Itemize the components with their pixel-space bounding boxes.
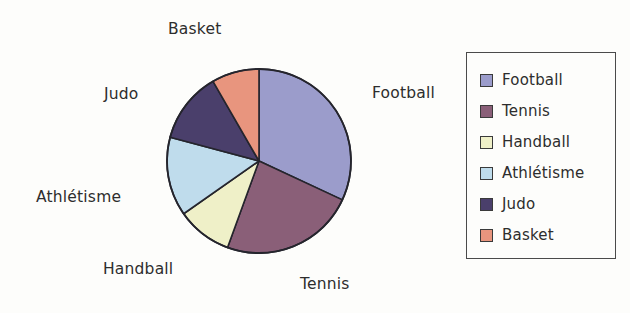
callout-label-judo: Judo: [104, 85, 139, 103]
chart-page: Football Tennis Handball Athlétisme Judo…: [0, 0, 630, 313]
legend-item-label: Judo: [502, 197, 535, 212]
callout-label-basket: Basket: [168, 20, 221, 38]
legend-swatch-icon: [480, 136, 493, 149]
callout-label-athletisme: Athlétisme: [36, 188, 121, 206]
legend-item-label: Athlétisme: [502, 166, 585, 181]
legend-swatch-icon: [480, 229, 493, 242]
legend-swatch-icon: [480, 105, 493, 118]
legend-item-handball[interactable]: Handball: [480, 127, 615, 158]
legend-swatch-icon: [480, 74, 493, 87]
callout-label-handball: Handball: [103, 260, 173, 278]
legend-item-athltisme[interactable]: Athlétisme: [480, 158, 615, 189]
legend-item-label: Handball: [502, 135, 570, 150]
legend-item-tennis[interactable]: Tennis: [480, 96, 615, 127]
legend-item-label: Tennis: [502, 104, 550, 119]
chart-legend: FootballTennisHandballAthlétismeJudoBask…: [466, 52, 616, 259]
callout-label-football: Football: [372, 84, 435, 102]
legend-item-football[interactable]: Football: [480, 65, 615, 96]
legend-item-judo[interactable]: Judo: [480, 189, 615, 220]
pie-slice-group: [167, 69, 351, 253]
legend-swatch-icon: [480, 198, 493, 211]
legend-item-label: Basket: [502, 228, 554, 243]
legend-swatch-icon: [480, 167, 493, 180]
legend-item-basket[interactable]: Basket: [480, 220, 615, 251]
callout-label-tennis: Tennis: [300, 275, 350, 293]
pie-chart: Football Tennis Handball Athlétisme Judo…: [0, 0, 460, 313]
legend-item-label: Football: [502, 73, 563, 88]
pie-svg: [0, 0, 460, 313]
